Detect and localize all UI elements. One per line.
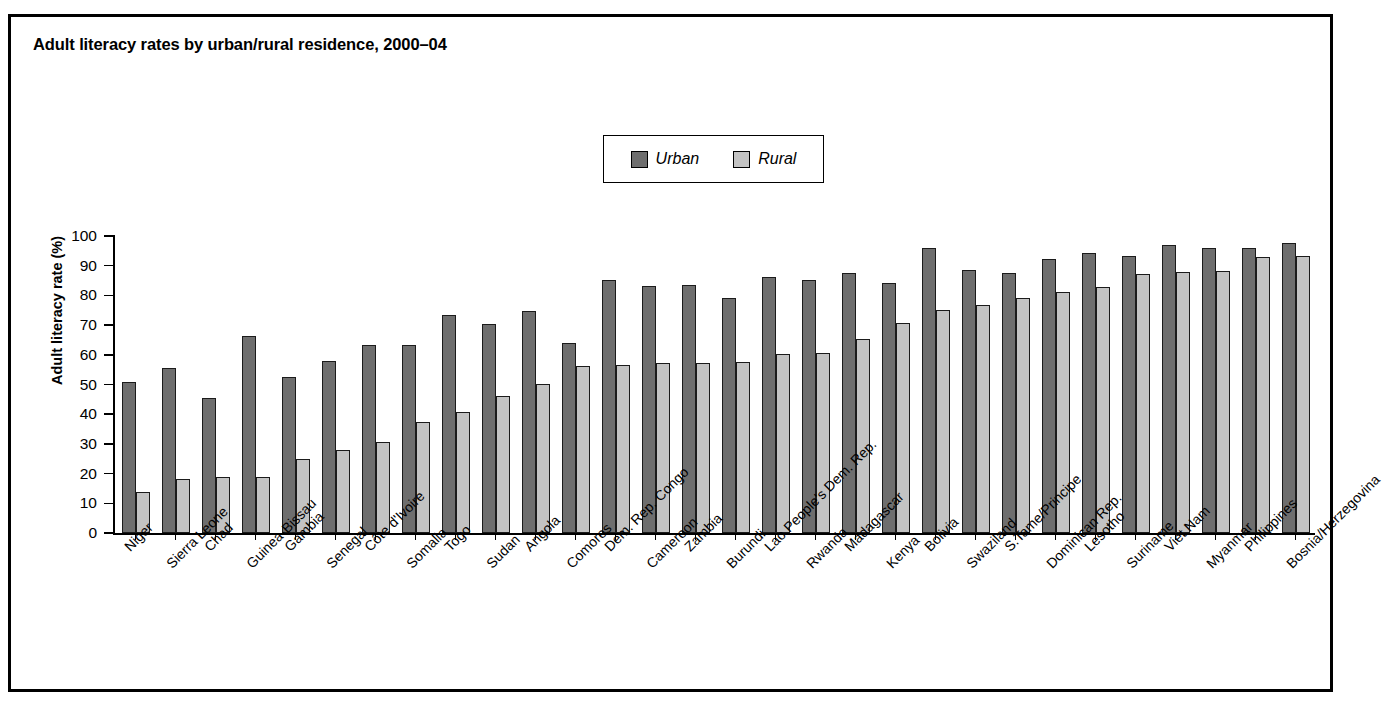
- x-tick-label: Sudan: [483, 531, 523, 571]
- y-tick-mark: [104, 503, 113, 505]
- legend-swatch-urban-icon: [631, 151, 648, 168]
- bar-urban: [522, 311, 536, 533]
- y-tick-label: 40: [53, 406, 97, 422]
- y-tick-mark: [104, 384, 113, 386]
- y-tick-label: 100: [53, 228, 97, 244]
- bar-urban: [562, 343, 576, 533]
- bar-urban: [1162, 245, 1176, 533]
- bar-rural: [176, 479, 190, 533]
- legend-item-rural: Rural: [733, 150, 796, 168]
- y-tick-label: 0: [53, 525, 97, 541]
- bar-rural: [976, 305, 990, 533]
- legend-swatch-rural-icon: [733, 151, 750, 168]
- bar-rural: [256, 477, 270, 533]
- x-tick-mark: [495, 534, 496, 540]
- bar-rural: [936, 310, 950, 533]
- plot-area: 0102030405060708090100 NigerSierra Leone…: [115, 236, 1315, 533]
- bar-urban: [1082, 253, 1096, 533]
- y-tick-label: 30: [53, 436, 97, 452]
- x-tick-mark: [335, 534, 336, 540]
- x-tick-mark: [895, 534, 896, 540]
- x-tick-mark: [1055, 534, 1056, 540]
- bar-urban: [762, 277, 776, 533]
- bar-rural: [496, 396, 510, 533]
- bar-rural: [536, 384, 550, 533]
- y-tick-mark: [104, 295, 113, 297]
- bar-rural: [736, 362, 750, 533]
- x-tick-mark: [815, 534, 816, 540]
- y-tick-label: 70: [53, 317, 97, 333]
- y-tick-mark: [104, 473, 113, 475]
- bar-urban: [602, 280, 616, 533]
- bar-rural: [336, 450, 350, 533]
- y-tick-mark: [104, 443, 113, 445]
- bar-rural: [1176, 272, 1190, 533]
- bar-rural: [576, 366, 590, 533]
- y-tick-mark: [104, 265, 113, 267]
- bar-urban: [242, 336, 256, 533]
- bar-rural: [776, 354, 790, 533]
- y-tick-label: 90: [53, 258, 97, 274]
- bar-urban: [1122, 256, 1136, 533]
- x-tick-mark: [175, 534, 176, 540]
- chart-legend: Urban Rural: [603, 135, 824, 183]
- y-tick-label: 20: [53, 466, 97, 482]
- bar-urban: [1002, 273, 1016, 533]
- figure-frame: Adult literacy rates by urban/rural resi…: [8, 14, 1333, 692]
- bar-rural: [456, 412, 470, 533]
- legend-label-rural: Rural: [758, 150, 796, 168]
- bar-urban: [962, 270, 976, 533]
- bar-urban: [122, 382, 136, 533]
- x-tick-mark: [655, 534, 656, 540]
- x-tick-mark: [415, 534, 416, 540]
- bar-urban: [682, 285, 696, 533]
- y-tick-label: 60: [53, 347, 97, 363]
- x-tick-mark: [1215, 534, 1216, 540]
- bar-rural: [416, 422, 430, 533]
- bar-urban: [482, 324, 496, 533]
- y-tick-label: 50: [53, 377, 97, 393]
- bar-urban: [922, 248, 936, 533]
- x-tick-mark: [1295, 534, 1296, 540]
- y-tick-mark: [104, 324, 113, 326]
- bar-rural: [1016, 298, 1030, 533]
- x-tick-mark: [1135, 534, 1136, 540]
- bar-urban: [362, 345, 376, 533]
- bar-urban: [842, 273, 856, 533]
- y-axis-line: [113, 235, 115, 534]
- bar-urban: [322, 361, 336, 533]
- x-tick-mark: [255, 534, 256, 540]
- bar-urban: [722, 298, 736, 533]
- bar-rural: [1256, 257, 1270, 533]
- legend-label-urban: Urban: [656, 150, 700, 168]
- bar-urban: [1282, 243, 1296, 533]
- y-tick-mark: [104, 532, 113, 534]
- y-tick-mark: [104, 413, 113, 415]
- bar-urban: [1242, 248, 1256, 533]
- chart-title: Adult literacy rates by urban/rural resi…: [33, 35, 447, 54]
- x-tick-label: Kenya: [883, 532, 922, 571]
- bar-rural: [1216, 271, 1230, 533]
- x-tick-mark: [575, 534, 576, 540]
- legend-item-urban: Urban: [631, 150, 700, 168]
- y-tick-mark: [104, 235, 113, 237]
- x-tick-mark: [735, 534, 736, 540]
- bar-urban: [1202, 248, 1216, 533]
- bar-rural: [616, 365, 630, 533]
- bar-rural: [1296, 256, 1310, 533]
- y-tick-label: 80: [53, 288, 97, 304]
- bar-rural: [1136, 274, 1150, 533]
- bar-urban: [442, 315, 456, 533]
- y-tick-label: 10: [53, 496, 97, 512]
- bar-rural: [696, 363, 710, 533]
- x-tick-mark: [975, 534, 976, 540]
- bar-urban: [162, 368, 176, 533]
- y-tick-mark: [104, 354, 113, 356]
